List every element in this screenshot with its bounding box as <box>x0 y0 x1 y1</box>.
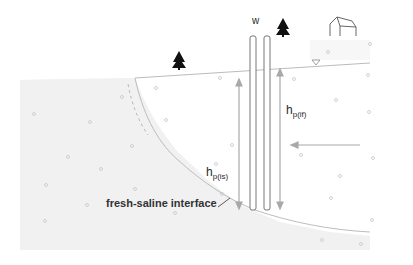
house-icon <box>330 17 356 36</box>
hpif-base: h <box>286 103 293 117</box>
tree-icon <box>172 51 186 70</box>
hpif-subscript: p(if) <box>293 110 307 119</box>
hpis-label: hp(is) <box>206 165 228 181</box>
tree-icon <box>276 18 290 37</box>
interface-label: fresh-saline interface <box>106 197 217 209</box>
hpif-label: hp(if) <box>286 103 306 119</box>
well-label: w <box>252 15 259 26</box>
aquifer-diagram <box>0 0 413 265</box>
hpis-subscript: p(is) <box>213 172 229 181</box>
hpis-base: h <box>206 165 213 179</box>
unsaturated-zone <box>310 40 370 60</box>
